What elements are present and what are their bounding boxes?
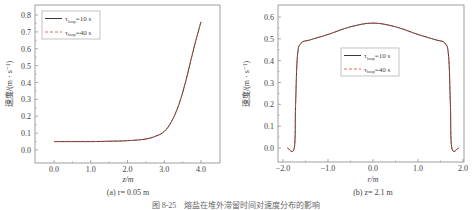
svg-text:0.1: 0.1 xyxy=(264,122,274,131)
x-axis-ticks-a: 0.01.02.03.04.0 xyxy=(49,160,206,174)
svg-text:0.4: 0.4 xyxy=(21,79,31,88)
svg-text:0.4: 0.4 xyxy=(264,57,274,66)
svg-text:0.0: 0.0 xyxy=(21,146,31,155)
svg-text:0.3: 0.3 xyxy=(264,79,274,88)
x-axis-label-b: r/m xyxy=(367,175,378,184)
svg-text:0.6: 0.6 xyxy=(264,13,274,22)
series-line-10s-b xyxy=(288,23,459,151)
svg-text:0.0: 0.0 xyxy=(368,164,378,173)
chart-b: 0.00.10.20.30.40.50.6 −2.0−1.00.01.02.0 … xyxy=(241,5,468,197)
svg-text:0.2: 0.2 xyxy=(264,100,274,109)
svg-text:−2.0: −2.0 xyxy=(276,164,291,173)
svg-text:1.0: 1.0 xyxy=(413,164,423,173)
svg-text:0.1: 0.1 xyxy=(21,129,31,138)
y-axis-ticks-a: 0.00.10.20.30.40.50.60.70.8 xyxy=(21,11,38,155)
svg-text:0.2: 0.2 xyxy=(21,112,31,121)
series-line-40s-b xyxy=(288,23,459,151)
series-line-40s-a xyxy=(54,22,201,142)
y-axis-label-a: 速度/(m · s⁻¹) xyxy=(4,61,14,108)
figure: 0.00.10.20.30.40.50.60.70.8 0.01.02.03.0… xyxy=(0,0,472,210)
svg-text:0.8: 0.8 xyxy=(21,11,31,20)
svg-text:0.0: 0.0 xyxy=(49,165,59,174)
x-axis-label-a: z/m xyxy=(121,175,133,184)
y-axis-label-b: 速度/(m · s⁻¹) xyxy=(241,61,251,108)
svg-text:0.7: 0.7 xyxy=(21,28,31,37)
figure-caption: 图 8-25 熔盐在堆外滞留时间对速度分布的影响 xyxy=(152,200,321,210)
svg-text:4.0: 4.0 xyxy=(196,165,206,174)
svg-text:3.0: 3.0 xyxy=(159,165,169,174)
svg-text:0.5: 0.5 xyxy=(264,35,274,44)
svg-text:0.3: 0.3 xyxy=(21,95,31,104)
y-axis-ticks-b: 0.00.10.20.30.40.50.6 xyxy=(264,13,281,153)
series-line-10s-a xyxy=(54,22,201,142)
svg-text:1.0: 1.0 xyxy=(86,165,96,174)
svg-text:2.0: 2.0 xyxy=(123,165,133,174)
legend-b: τloop=10 s τloop=40 s xyxy=(341,48,399,76)
subtitle-a: (a) r= 0.05 m xyxy=(107,188,150,197)
svg-text:0.5: 0.5 xyxy=(21,62,31,71)
svg-text:−1.0: −1.0 xyxy=(321,164,336,173)
chart-a: 0.00.10.20.30.40.50.60.70.8 0.01.02.03.0… xyxy=(4,5,220,197)
svg-text:2.0: 2.0 xyxy=(458,164,468,173)
legend-a: τloop=10 s τloop=40 s xyxy=(42,11,100,39)
x-axis-ticks-b: −2.0−1.00.01.02.0 xyxy=(276,159,468,173)
subtitle-b: (b) z= 2.1 m xyxy=(353,188,393,197)
svg-text:0.6: 0.6 xyxy=(21,45,31,54)
plot-frame-b xyxy=(278,5,464,162)
svg-text:0.0: 0.0 xyxy=(264,144,274,153)
